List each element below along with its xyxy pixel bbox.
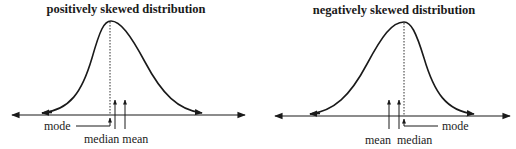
panel-title: positively skewed distribution [46,2,205,16]
median-mean-label: median mean [84,132,148,146]
mean-median-label: mean median [365,133,432,147]
curve-left-tail-arrow [42,113,52,114]
mode-label: mode [44,119,71,133]
skew-diagram: positively skewed distribution mode medi… [0,0,516,149]
distribution-curve [310,22,474,114]
mode-label: mode [442,119,469,133]
mode-pointer [404,119,438,126]
panel-negative-skew: negatively skewed distribution mode mean… [275,3,510,147]
curve-left-tail-arrow [310,114,320,115]
mode-pointer [76,118,110,126]
distribution-curve [42,21,202,113]
panel-positive-skew: positively skewed distribution mode medi… [12,2,245,146]
panel-title: negatively skewed distribution [313,3,476,17]
